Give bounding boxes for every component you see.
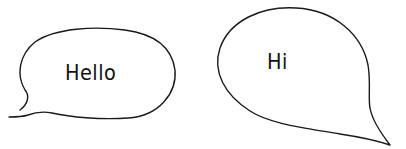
bubble-text-hi: Hi: [267, 50, 288, 74]
speech-bubbles-canvas: [0, 0, 406, 149]
bubble-text-hello: Hello: [65, 61, 116, 85]
speech-bubble-right: [218, 8, 390, 145]
